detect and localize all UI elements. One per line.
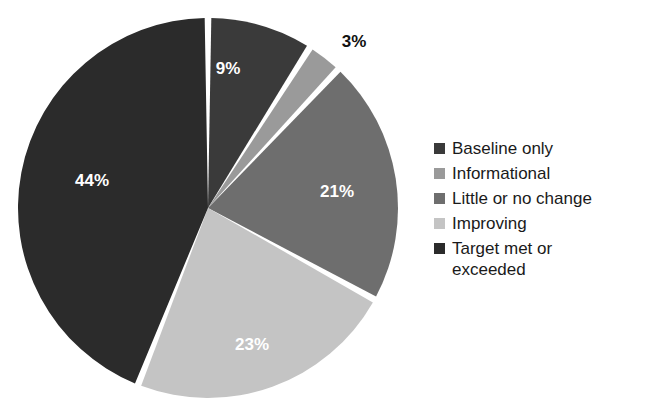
legend-item-label: Improving [452,213,527,234]
legend-swatch-icon [434,193,445,204]
pie-slice-value-label: 21% [320,183,354,200]
legend-swatch-icon [434,243,445,254]
legend-item-label: Baseline only [452,138,553,159]
legend-item[interactable]: Little or no change [434,188,644,212]
pie-slice-value-label: 3% [342,33,367,50]
legend-item-label-line1: Target met or [452,238,552,259]
pie-slice-group [18,18,398,398]
legend-swatch-icon [434,168,445,179]
legend-item-label: Informational [452,163,550,184]
pie-slice-value-label: 23% [235,336,269,353]
pie-slice-value-label: 9% [216,60,241,77]
pie-chart: 9%3%21%23%44% Baseline onlyInformational… [0,0,647,420]
legend-item[interactable]: Target met orexceeded [434,238,644,283]
legend-swatch-icon [434,218,445,229]
legend-item-label: Target met orexceeded [452,238,552,280]
pie-slice-value-label: 44% [75,172,109,189]
chart-legend: Baseline onlyInformationalLittle or no c… [434,138,644,284]
legend-item[interactable]: Improving [434,213,644,237]
legend-item[interactable]: Informational [434,163,644,187]
legend-swatch-icon [434,143,445,154]
legend-item-label-line2: exceeded [452,259,552,280]
pie-plot-area: 9%3%21%23%44% [0,0,420,420]
legend-item[interactable]: Baseline only [434,138,644,162]
legend-item-label: Little or no change [452,188,592,209]
pie-svg [0,0,420,420]
